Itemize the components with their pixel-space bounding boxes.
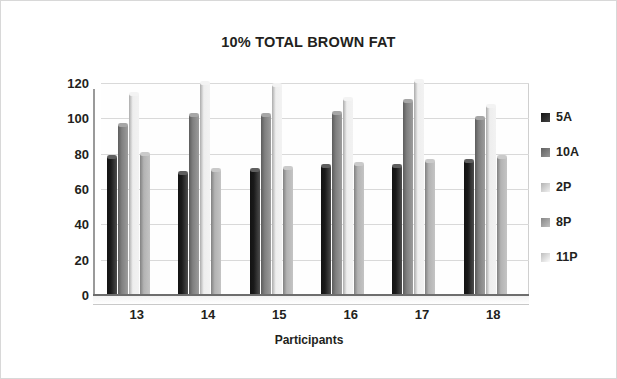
- x-tick-label: 13: [101, 307, 172, 327]
- bar[interactable]: [118, 125, 128, 295]
- bar-cap: [403, 99, 413, 103]
- x-tick-label: 18: [458, 307, 529, 327]
- x-axis-line: [93, 294, 529, 296]
- bar-cap: [464, 159, 474, 163]
- legend-swatch-icon: [541, 148, 550, 157]
- bar-cap: [118, 123, 128, 127]
- bar[interactable]: [178, 173, 188, 295]
- bar-cap: [250, 168, 260, 172]
- bar-cap: [189, 113, 199, 117]
- x-tick-label: 15: [244, 307, 315, 327]
- bar[interactable]: [261, 115, 271, 295]
- y-tick-label: 0: [49, 288, 89, 303]
- bar-cap: [261, 113, 271, 117]
- y-tick-label: 120: [49, 76, 89, 91]
- bar[interactable]: [321, 166, 331, 295]
- bar-cap: [486, 104, 496, 108]
- bar-cap: [211, 168, 221, 172]
- chart-title: 10% TOTAL BROWN FAT: [1, 34, 616, 50]
- y-tick-label: 40: [49, 217, 89, 232]
- bars-layer: [101, 83, 529, 295]
- bar-group: [458, 83, 529, 295]
- legend-item-8p[interactable]: 8P: [541, 214, 615, 230]
- bar[interactable]: [332, 113, 342, 295]
- bar-cap: [107, 155, 117, 159]
- x-tick-label: 14: [172, 307, 243, 327]
- bar[interactable]: [200, 83, 210, 295]
- bar-cap: [343, 97, 353, 101]
- bar[interactable]: [464, 161, 474, 295]
- bar[interactable]: [414, 81, 424, 295]
- legend-label: 10A: [556, 145, 579, 159]
- bar[interactable]: [343, 99, 353, 295]
- bar-group: [386, 83, 457, 295]
- bar[interactable]: [486, 106, 496, 295]
- y-axis-line: [93, 89, 95, 295]
- bar[interactable]: [283, 168, 293, 295]
- bar[interactable]: [140, 154, 150, 295]
- legend-swatch-icon: [541, 113, 550, 122]
- x-tick-label: 16: [315, 307, 386, 327]
- y-axis-tick-labels: 120100806040200: [45, 83, 89, 295]
- legend-label: 5A: [556, 110, 572, 124]
- bar[interactable]: [497, 157, 507, 295]
- bar-cap: [129, 92, 139, 96]
- bar-group: [172, 83, 243, 295]
- bar[interactable]: [107, 157, 117, 295]
- legend-swatch-icon: [541, 253, 550, 262]
- legend-label: 8P: [556, 215, 571, 229]
- bar-cap: [283, 166, 293, 170]
- x-tick-label: 17: [386, 307, 457, 327]
- bar-cap: [140, 152, 150, 156]
- y-tick-label: 100: [49, 111, 89, 126]
- bar-cap: [200, 81, 210, 85]
- bar[interactable]: [211, 170, 221, 295]
- bar[interactable]: [272, 85, 282, 295]
- bar-cap: [392, 164, 402, 168]
- legend-item-2p[interactable]: 2P: [541, 179, 615, 195]
- bar[interactable]: [403, 101, 413, 295]
- bar[interactable]: [129, 94, 139, 295]
- legend-label: 11P: [556, 250, 578, 264]
- bar-cap: [321, 164, 331, 168]
- bar-group: [244, 83, 315, 295]
- bar-cap: [178, 171, 188, 175]
- legend-swatch-icon: [541, 218, 550, 227]
- bar[interactable]: [425, 161, 435, 295]
- legend-swatch-icon: [541, 183, 550, 192]
- bar[interactable]: [354, 164, 364, 295]
- legend-item-11p[interactable]: 11P: [541, 249, 615, 265]
- bar-cap: [475, 116, 485, 120]
- floor-face: [93, 296, 529, 305]
- chart-floor: [93, 294, 529, 305]
- y-tick-label: 60: [49, 182, 89, 197]
- bar-cap: [425, 159, 435, 163]
- x-axis-title: Participants: [89, 333, 529, 347]
- bar-group: [315, 83, 386, 295]
- bar-cap: [414, 79, 424, 83]
- y-tick-label: 20: [49, 252, 89, 267]
- x-axis-tick-labels: 131415161718: [101, 307, 529, 327]
- bar[interactable]: [475, 118, 485, 295]
- legend-item-10a[interactable]: 10A: [541, 144, 615, 160]
- bar[interactable]: [189, 115, 199, 295]
- bar[interactable]: [250, 170, 260, 295]
- chart-legend: 5A10A2P8P11P: [541, 109, 615, 279]
- bar-cap: [272, 83, 282, 87]
- bar[interactable]: [392, 166, 402, 295]
- bar-cap: [332, 111, 342, 115]
- bar-cap: [354, 162, 364, 166]
- bar-group: [101, 83, 172, 295]
- y-tick-label: 80: [49, 146, 89, 161]
- chart-figure: 10% TOTAL BROWN FAT Blood Glucose 120100…: [0, 0, 617, 379]
- legend-item-5a[interactable]: 5A: [541, 109, 615, 125]
- bar-cap: [497, 155, 507, 159]
- legend-label: 2P: [556, 180, 571, 194]
